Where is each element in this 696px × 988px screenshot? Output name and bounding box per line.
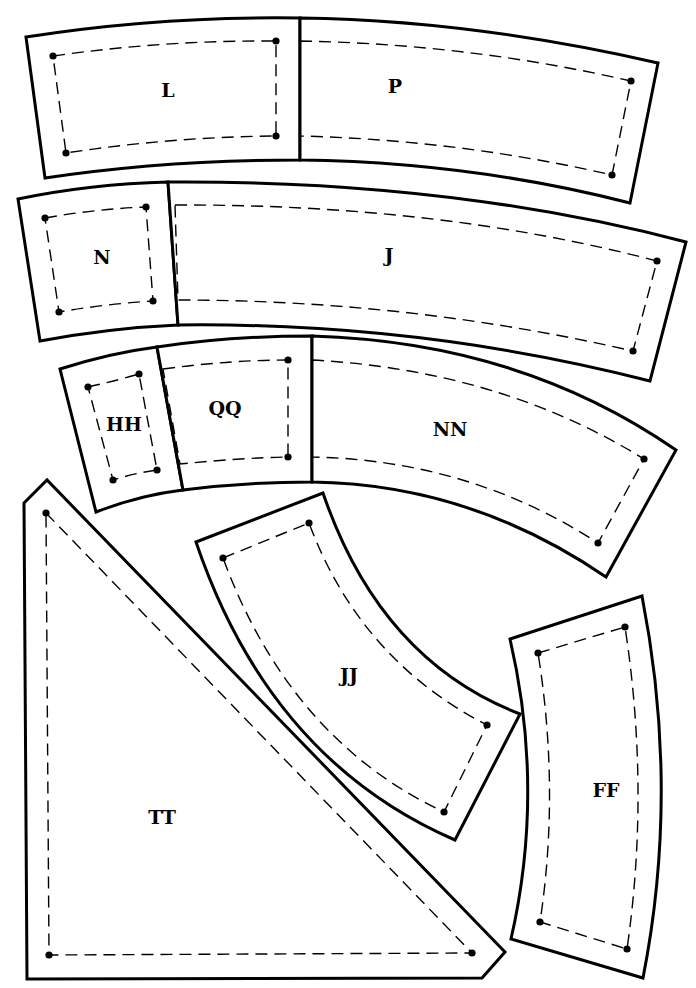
pattern-pieces: LPNJHHQQNNTTJJFF bbox=[18, 18, 686, 979]
pattern-piece-n: N bbox=[18, 182, 178, 341]
corner-dot-icon bbox=[142, 203, 149, 210]
corner-dot-icon bbox=[219, 554, 226, 561]
pattern-piece-l: L bbox=[26, 18, 300, 178]
quilt-pattern-diagram: LPNJHHQQNNTTJJFF bbox=[0, 0, 696, 988]
corner-dot-icon bbox=[284, 453, 291, 460]
corner-dot-icon bbox=[55, 308, 62, 315]
corner-dot-icon bbox=[653, 257, 660, 264]
corner-dot-icon bbox=[284, 356, 291, 363]
corner-dot-icon bbox=[623, 945, 630, 952]
piece-label: P bbox=[388, 75, 402, 97]
pattern-piece-ff: FF bbox=[510, 596, 661, 978]
corner-dot-icon bbox=[305, 519, 312, 526]
corner-dot-icon bbox=[483, 721, 490, 728]
piece-label: JJ bbox=[338, 664, 358, 686]
piece-label: HH bbox=[106, 413, 142, 435]
pattern-piece-qq: QQ bbox=[157, 336, 312, 490]
corner-dot-icon bbox=[45, 951, 52, 958]
corner-dot-icon bbox=[627, 77, 634, 84]
piece-label: TT bbox=[148, 806, 176, 828]
pattern-piece-p: P bbox=[300, 18, 658, 203]
corner-dot-icon bbox=[135, 370, 142, 377]
corner-dot-icon bbox=[272, 37, 279, 44]
piece-label: N bbox=[93, 246, 110, 268]
corner-dot-icon bbox=[272, 132, 279, 139]
corner-dot-icon bbox=[608, 171, 615, 178]
corner-dot-icon bbox=[440, 808, 447, 815]
piece-label: L bbox=[161, 79, 174, 101]
corner-dot-icon bbox=[153, 466, 160, 473]
corner-dot-icon bbox=[42, 509, 49, 516]
corner-dot-icon bbox=[468, 949, 475, 956]
piece-label: FF bbox=[593, 779, 620, 801]
corner-dot-icon bbox=[84, 383, 91, 390]
piece-label: NN bbox=[433, 418, 468, 440]
corner-dot-icon bbox=[536, 918, 543, 925]
corner-dot-icon bbox=[534, 649, 541, 656]
corner-dot-icon bbox=[41, 214, 48, 221]
corner-dot-icon bbox=[109, 476, 116, 483]
piece-label: QQ bbox=[208, 397, 241, 419]
corner-dot-icon bbox=[629, 347, 636, 354]
corner-dot-icon bbox=[149, 297, 156, 304]
corner-dot-icon bbox=[594, 539, 601, 546]
corner-dot-icon bbox=[62, 149, 69, 156]
corner-dot-icon bbox=[640, 455, 647, 462]
corner-dot-icon bbox=[49, 52, 56, 59]
corner-dot-icon bbox=[621, 623, 628, 630]
piece-label: J bbox=[383, 244, 394, 266]
cutting-line bbox=[300, 18, 658, 203]
